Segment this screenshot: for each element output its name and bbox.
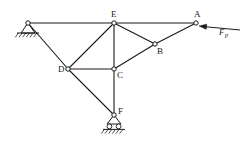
ground-hatch xyxy=(15,33,18,37)
truss-member-eb xyxy=(114,23,155,44)
node-label-d: D xyxy=(58,64,65,74)
truss-member-ba xyxy=(155,23,196,44)
truss-member-de xyxy=(68,23,114,69)
truss-node-e xyxy=(112,21,116,25)
ground-hatch xyxy=(109,129,112,133)
node-label-a: A xyxy=(194,9,201,19)
truss-node-g xyxy=(26,21,30,25)
roller-wheel-right xyxy=(116,124,121,129)
truss-node-a xyxy=(194,21,198,25)
ground-hatch xyxy=(101,129,104,133)
truss-member-df xyxy=(68,69,114,115)
ground-hatch xyxy=(34,33,37,37)
force-arrow-head xyxy=(199,24,207,29)
ground-hatch xyxy=(23,33,26,37)
truss-node-f xyxy=(112,113,116,117)
supports-group xyxy=(15,23,125,134)
ground-hatch xyxy=(105,129,108,133)
roller-support xyxy=(101,115,125,134)
pin-support-ground xyxy=(15,33,39,37)
node-label-c: C xyxy=(117,70,123,80)
ground-hatch xyxy=(116,129,119,133)
truss-node-d xyxy=(66,67,70,71)
truss-diagram: FP EADCBF xyxy=(0,0,248,142)
ground-hatch xyxy=(112,129,115,133)
ground-hatch xyxy=(19,33,22,37)
roller-wheel-left xyxy=(107,124,112,129)
roller-support-ground xyxy=(101,129,125,133)
node-labels-group: EADCBF xyxy=(58,9,201,116)
truss-node-c xyxy=(112,67,116,71)
node-label-b: B xyxy=(157,46,163,56)
force-label-subscript: P xyxy=(224,33,229,39)
figure-canvas: FP EADCBF xyxy=(0,0,248,142)
truss-member-gd xyxy=(28,23,68,69)
ground-hatch xyxy=(26,33,29,37)
force-vector-group: FP xyxy=(199,24,240,38)
node-label-f: F xyxy=(118,106,123,116)
ground-hatch xyxy=(30,33,33,37)
ground-hatch xyxy=(120,129,123,133)
force-vector-FP: FP xyxy=(199,24,240,38)
node-label-e: E xyxy=(111,9,117,19)
truss-member-cb xyxy=(114,44,155,69)
